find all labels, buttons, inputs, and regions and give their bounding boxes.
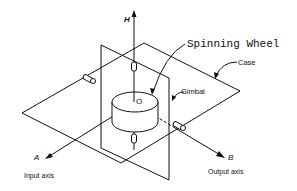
gyroscope-diagram: Spinning Wheel Case Gimbal H O A B Input… [0,0,297,191]
bearing-top [132,62,137,71]
h-axis-label: H [124,15,130,24]
bearing-bottom [132,134,137,143]
bearing-right [172,121,185,131]
spinning-wheel-label: Spinning Wheel [187,38,279,50]
b-arrow-icon [216,151,225,158]
b-axis-line [175,128,222,156]
case-label: Case [238,58,256,67]
h-arrow-icon [132,10,137,17]
input-axis-label: Input axis [24,172,54,180]
case-leader [216,62,237,76]
center-label: O [136,97,142,106]
output-axis-label: Output axis [208,168,244,176]
a-axis-label: A [33,153,39,162]
b-axis-label: B [228,153,234,162]
gimbal-label: Gimbal [181,87,205,96]
a-arrow-icon [45,153,53,159]
spinning-wheel [112,92,158,132]
bearing-left [82,74,95,84]
